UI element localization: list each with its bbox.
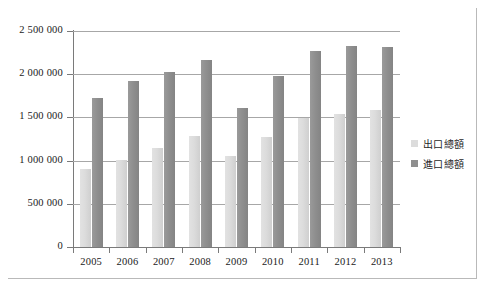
bar-export-2012 [334, 114, 345, 247]
bar-import-2005 [92, 98, 103, 247]
y-axis-label-1000000: 1 000 000 [19, 154, 63, 165]
legend-item-import: 進口總額 [411, 153, 473, 173]
x-axis-label-2010: 2010 [253, 256, 293, 267]
bar-import-2012 [346, 46, 357, 247]
x-axis-tick [255, 248, 256, 253]
bar-export-2010 [261, 137, 272, 247]
x-axis-tick [182, 248, 183, 253]
bar-import-2006 [128, 81, 139, 247]
bar-import-2009 [237, 108, 248, 247]
legend-label-export: 出口總額 [423, 136, 464, 151]
x-axis-label-2006: 2006 [108, 256, 148, 267]
y-axis-label-2000000: 2 000 000 [19, 67, 63, 78]
x-axis-tick [327, 248, 328, 253]
y-axis-label-2500000: 2 500 000 [19, 24, 63, 35]
bar-import-2013 [382, 47, 393, 247]
y-axis-label-500000: 500 000 [27, 197, 63, 208]
bar-import-2010 [273, 76, 284, 247]
bar-import-2008 [201, 60, 212, 247]
x-axis-label-2009: 2009 [217, 256, 257, 267]
plot-area [73, 31, 400, 247]
x-axis-label-2013: 2013 [362, 256, 402, 267]
x-axis-label-2005: 2005 [71, 256, 111, 267]
legend-swatch-icon-import [411, 160, 418, 167]
chart-figure: 2 500 000 2 000 000 1 500 000 1 000 000 … [0, 0, 486, 292]
x-axis-tick [400, 248, 401, 253]
legend-label-import: 進口總額 [423, 156, 464, 171]
x-axis-label-2007: 2007 [144, 256, 184, 267]
y-axis-label-1500000: 1 500 000 [19, 110, 63, 121]
x-axis-line [73, 247, 401, 248]
bar-export-2006 [116, 160, 127, 247]
bar-export-2013 [370, 110, 381, 247]
x-axis-tick [218, 248, 219, 253]
bar-export-2005 [80, 169, 91, 247]
y-axis-label-0: 0 [58, 240, 63, 251]
x-axis-tick [364, 248, 365, 253]
bar-import-2007 [164, 72, 175, 247]
legend-item-export: 出口總額 [411, 133, 473, 153]
chart-legend: 出口總額 進口總額 [411, 133, 473, 173]
x-axis-label-2012: 2012 [326, 256, 366, 267]
x-axis-tick [73, 248, 74, 253]
x-axis-tick [146, 248, 147, 253]
bar-export-2009 [225, 156, 236, 247]
gridline [73, 31, 400, 32]
bar-export-2007 [152, 148, 163, 247]
bar-export-2008 [189, 136, 200, 247]
bar-import-2011 [310, 51, 321, 247]
bar-export-2011 [298, 118, 309, 247]
legend-swatch-icon-export [411, 140, 418, 147]
x-axis-tick [109, 248, 110, 253]
x-axis-tick [291, 248, 292, 253]
x-axis-label-2011: 2011 [289, 256, 329, 267]
x-axis-label-2008: 2008 [180, 256, 220, 267]
